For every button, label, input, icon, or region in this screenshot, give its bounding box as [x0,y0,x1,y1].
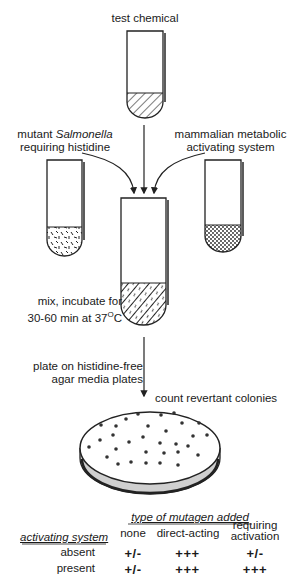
cell-absent-direct: +++ [165,547,210,560]
cell-present-none: +/- [118,563,148,576]
count-colonies-label: count revertant colonies [155,392,295,405]
salmonella-label: mutant Salmonella requiring histidine [10,128,120,154]
table-row-header: activating system [20,531,108,544]
activating-system-tube [205,160,243,255]
mix-incubate-label: mix, incubate for 30-60 min at 37OC [22,295,122,325]
test-chemical-tube [127,31,165,123]
row-present-label: present [50,562,95,575]
cell-absent-none: +/- [118,547,148,560]
plate-label: plate on histidine-free agar media plate… [28,360,143,386]
test-chemical-label: test chemical [95,12,195,25]
salmonella-tube [47,160,84,257]
cell-present-direct: +++ [165,563,210,576]
agar-plate [80,411,220,494]
activating-system-label: mammalian metabolic activating system [168,128,293,154]
mixture-tube [121,198,168,328]
column-none: none [118,527,148,540]
cell-absent-requiring: +/- [235,547,275,560]
column-direct-acting: direct-acting [153,527,223,540]
cell-present-requiring: +++ [235,563,275,576]
ames-test-diagram [0,0,301,582]
column-requiring-activation: requiring activation [225,520,285,542]
row-absent-label: absent [50,546,95,559]
